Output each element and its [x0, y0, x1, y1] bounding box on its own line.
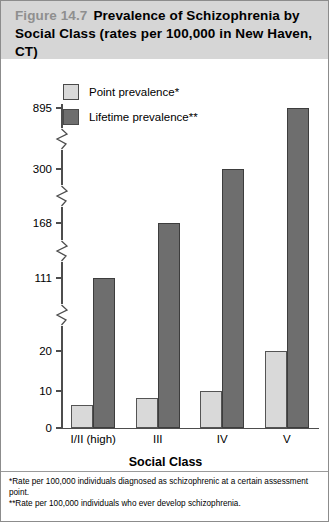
y-axis-tick-label: 168	[33, 217, 52, 229]
bar-point-0	[71, 405, 93, 427]
bar-point-1	[136, 398, 158, 428]
title-band: Figure 14.7Prevalence of Schizophrenia b…	[1, 1, 329, 59]
bar-lifetime-0	[93, 278, 115, 428]
x-axis-tick-label: IV	[217, 433, 228, 445]
bar-lifetime-1	[158, 223, 180, 428]
bar-point-2	[200, 391, 222, 428]
bar-group	[61, 59, 319, 429]
footnotes-block: *Rate per 100,000 individuals diagnosed …	[1, 471, 329, 511]
chart-plot-area: Point prevalence* Lifetime prevalence** …	[1, 59, 329, 469]
bar-lifetime-2	[222, 169, 244, 428]
x-axis-tick-label: V	[283, 433, 291, 445]
x-axis-title: Social Class	[1, 455, 329, 469]
bar-point-3	[265, 351, 287, 428]
bar-lifetime-3	[287, 108, 309, 428]
y-axis-tick-label: 20	[39, 345, 52, 357]
y-axis-tick-label: 300	[33, 163, 52, 175]
footnote-2: **Rate per 100,000 individuals who ever …	[9, 499, 322, 510]
figure-number-label: Figure 14.7	[15, 8, 87, 23]
x-axis-tick-label: I/II (high)	[71, 433, 116, 445]
footnote-1: *Rate per 100,000 individuals diagnosed …	[9, 477, 322, 498]
title-inner: Figure 14.7Prevalence of Schizophrenia b…	[15, 6, 324, 60]
y-axis-tick-label: 111	[35, 272, 52, 284]
y-axis-tick-label: 10	[39, 385, 52, 397]
x-axis-tick-label: III	[153, 433, 163, 445]
figure-container: Figure 14.7Prevalence of Schizophrenia b…	[0, 0, 329, 522]
y-axis-tick-label: 0	[46, 422, 52, 434]
y-axis-tick-label: 895	[33, 102, 52, 114]
